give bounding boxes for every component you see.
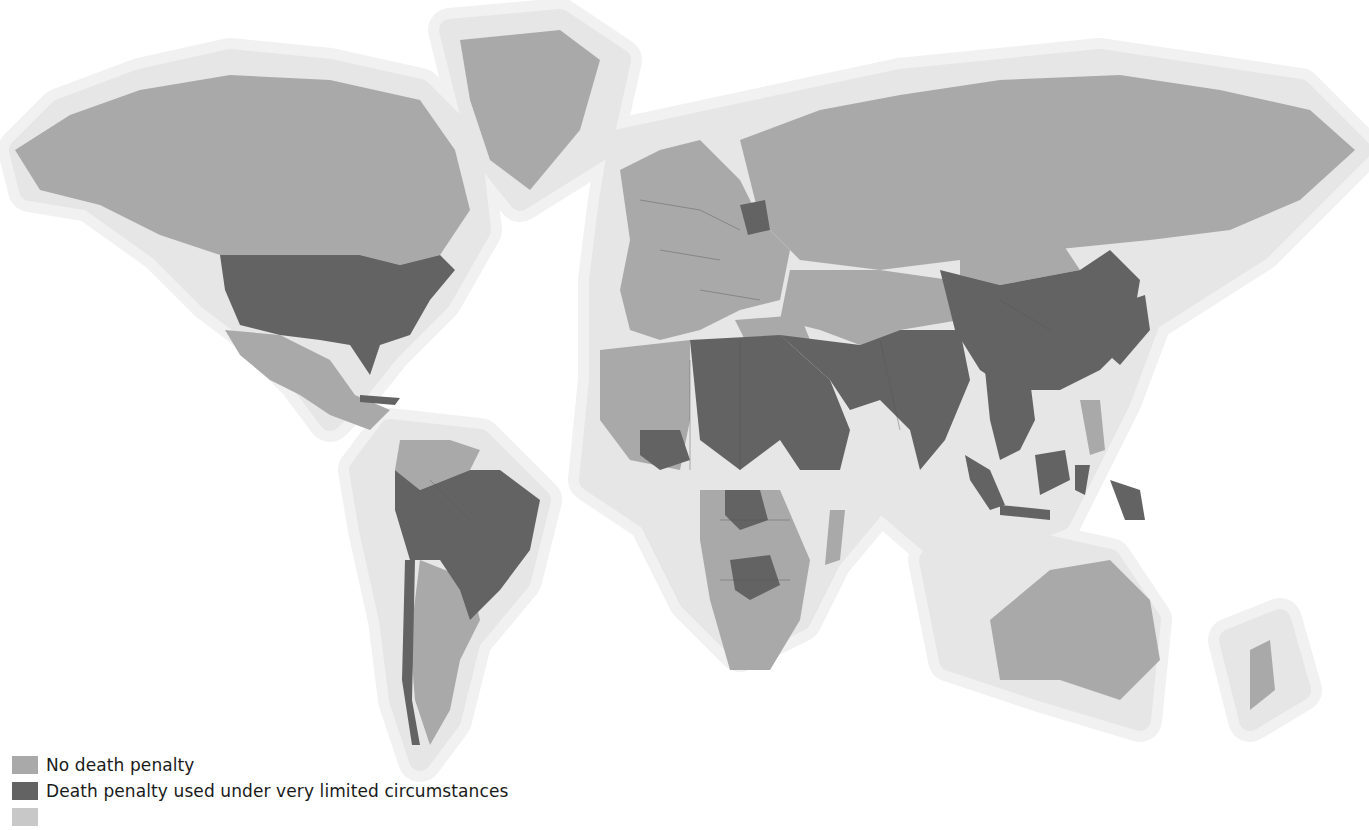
legend-label: No death penalty <box>46 755 195 775</box>
legend-item-limited: Death penalty used under very limited ci… <box>12 778 508 804</box>
legend-swatch-dark <box>12 782 38 800</box>
legend-item-no-death-penalty: No death penalty <box>12 752 508 778</box>
legend-swatch-third <box>12 808 38 826</box>
legend-swatch-light <box>12 756 38 774</box>
legend-label: Death penalty used under very limited ci… <box>46 781 508 801</box>
map-legend: No death penalty Death penalty used unde… <box>12 752 508 830</box>
papua <box>1110 480 1145 520</box>
legend-item-cut-off <box>12 804 508 830</box>
